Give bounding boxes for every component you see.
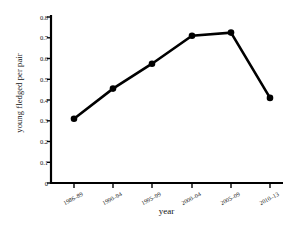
data-point-marker [71, 115, 78, 122]
data-series-line [74, 33, 270, 119]
data-point-marker [189, 32, 196, 39]
data-series-markers [71, 29, 274, 122]
data-point-marker [228, 29, 235, 36]
data-point-marker [110, 85, 117, 92]
chart-canvas [0, 0, 294, 226]
x-axis-title: year [51, 206, 282, 216]
data-point-marker [267, 95, 274, 102]
data-point-marker [149, 60, 156, 67]
chart-figure: 0.8 0.7 0.6 0.5 0.4 0.3 0.2 0.1 0 young … [0, 0, 294, 226]
